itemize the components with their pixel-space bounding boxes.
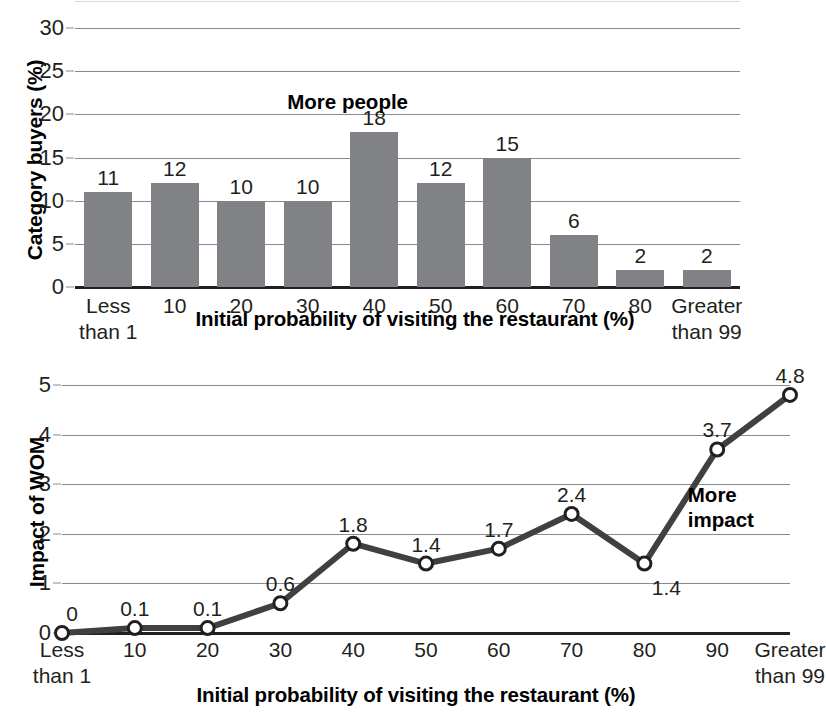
x-tick-line: 30 [296,293,319,319]
data-point-label: 3.7 [703,419,732,440]
y-tick-mark [66,243,74,244]
x-tick-line: Less [33,637,91,663]
data-point-marker [347,537,360,550]
x-tick-label: Lessthan 1 [33,637,91,688]
bar-value-label: 12 [429,158,452,183]
x-tick-label: 40 [342,637,365,663]
x-tick-label: 60 [496,293,519,319]
line-chart-annotation: Moreimpact [688,482,754,532]
data-point-label: 0.1 [193,598,222,619]
line-chart-plot-area: 01234500.10.10.61.81.41.72.41.43.74.8Mor… [62,385,790,633]
x-tick-line: 70 [560,637,583,663]
bar [483,158,531,288]
data-point-label: 1.4 [411,534,440,555]
bar-chart-plot-area: 05101520253011121010181215622More people [75,28,740,287]
x-tick-line: 50 [414,637,437,663]
x-tick-label: 70 [560,637,583,663]
x-tick-label: 70 [562,293,585,319]
data-point-label: 1.8 [339,514,368,535]
data-point-marker [128,622,141,635]
bar [550,235,598,287]
x-tick-line: 10 [123,637,146,663]
y-tick-mark [66,287,74,288]
x-tick-line: than 99 [671,319,742,345]
y-tick-mark [53,533,61,534]
x-tick-line: than 1 [79,319,137,345]
x-tick-line: 80 [629,293,652,319]
bar-chart-annotation: More people [287,89,408,114]
bar [683,270,731,287]
bar-chart-x-axis-title: Initial probability of visiting the rest… [135,307,695,331]
data-point-label: 1.4 [652,577,681,598]
bar-value-label: 10 [296,176,319,201]
bar-value-label: 2 [634,245,646,270]
x-tick-label: 50 [429,293,452,319]
y-tick-mark [66,200,74,201]
y-tick-mark [66,157,74,158]
annotation-line: impact [688,507,754,532]
data-point-marker [492,542,505,555]
bar [217,201,265,287]
data-point-label: 4.8 [775,365,804,386]
y-tick-mark [53,583,61,584]
x-tick-line: than 99 [754,663,825,689]
bar-value-label: 2 [701,245,713,270]
bar-value-label: 15 [496,133,519,158]
x-tick-label: Greaterthan 99 [671,293,742,344]
x-tick-label: 10 [123,637,146,663]
data-point-label: 0.6 [266,573,295,594]
x-tick-label: 90 [706,637,729,663]
data-point-marker [711,443,724,456]
bar [284,201,332,287]
x-tick-label: 20 [230,293,253,319]
x-tick-line: 20 [196,637,219,663]
line-chart-x-axis-title: Initial probability of visiting the rest… [136,683,696,707]
x-tick-label: 80 [629,293,652,319]
bar-value-label: 12 [163,158,186,183]
clipped-gridline [75,1,740,2]
x-tick-line: Greater [754,637,825,663]
bar [417,183,465,287]
x-tick-label: 20 [196,637,219,663]
data-point-label: 2.4 [557,484,586,505]
x-tick-label: Greaterthan 99 [754,637,825,688]
gridline [75,114,740,115]
data-point-marker [201,622,214,635]
x-tick-line: 20 [230,293,253,319]
x-tick-line: than 1 [33,663,91,689]
x-tick-line: 80 [633,637,656,663]
bar [84,192,132,287]
x-tick-label: 30 [269,637,292,663]
x-tick-label: 80 [633,637,656,663]
x-tick-label: 50 [414,637,437,663]
data-point-label: 0 [66,603,78,624]
data-point-marker [274,597,287,610]
x-tick-line: 40 [363,293,386,319]
gridline [75,71,740,72]
x-tick-line: 30 [269,637,292,663]
y-tick-mark [66,71,74,72]
bar-value-label: 11 [97,167,119,192]
x-tick-label: 60 [487,637,510,663]
x-tick-line: Less [79,293,137,319]
x-tick-line: Greater [671,293,742,319]
bar-value-label: 6 [568,210,580,235]
bar-value-label: 10 [230,176,253,201]
y-tick-mark [66,28,74,29]
data-point-label: 0.1 [120,598,149,619]
x-tick-label: Lessthan 1 [79,293,137,344]
data-point-marker [420,557,433,570]
gridline [75,28,740,29]
data-point-marker [638,557,651,570]
y-tick-mark [53,385,61,386]
data-point-label: 1.7 [484,519,513,540]
data-point-marker [784,388,797,401]
bar [616,270,664,287]
x-tick-line: 10 [163,293,186,319]
x-tick-line: 60 [487,637,510,663]
x-tick-label: 10 [163,293,186,319]
x-tick-line: 60 [496,293,519,319]
x-tick-line: 70 [562,293,585,319]
y-tick-mark [66,114,74,115]
x-tick-label: 40 [363,293,386,319]
